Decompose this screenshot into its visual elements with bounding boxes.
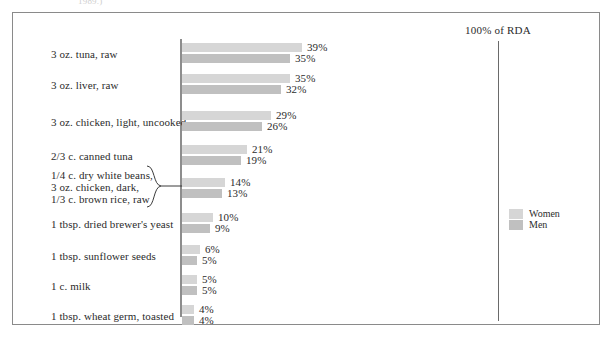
bar-men-sunflower-seeds [182, 256, 197, 265]
bar-row-label-line: 1 c. milk [51, 280, 91, 292]
group-brace-icon [143, 164, 183, 210]
bar-men-wheat-germ-toasted [182, 316, 194, 325]
bar-women-brewers-yeast [182, 213, 213, 222]
bar-men-beans-chicken-dark-brown-rice [182, 189, 222, 198]
plot-area: 100% of RDA 3 oz. tuna, raw39%35%3 oz. l… [13, 13, 601, 326]
figure-page: 1989.) 100% of RDA 3 oz. tuna, raw39%35%… [0, 0, 616, 342]
legend-swatch-men-icon [509, 220, 523, 230]
bar-pair-beans-chicken-dark-brown-rice [182, 178, 225, 198]
bar-row-label-line: 1 tbsp. sunflower seeds [51, 250, 156, 262]
bar-value-men-chicken-light-uncooked: 26% [267, 120, 287, 132]
bar-pair-chicken-light-uncooked [182, 111, 271, 131]
bar-row-label-tuna-raw: 3 oz. tuna, raw [51, 48, 118, 60]
bar-row-label-line: 1 tbsp. wheat germ, toasted [51, 310, 174, 322]
bar-women-liver-raw [182, 74, 290, 83]
bar-row-label-chicken-light-uncooked: 3 oz. chicken, light, uncooked [51, 116, 186, 128]
bar-row-label-line: 1/3 c. brown rice, raw [51, 193, 153, 205]
bar-value-men-brewers-yeast: 9% [215, 222, 230, 234]
bar-pair-tuna-raw [182, 43, 302, 63]
bar-row-label-line: 1/4 c. dry white beans, [51, 169, 153, 181]
bar-row-label-line: 2/3 c. canned tuna [51, 150, 133, 162]
bar-pair-sunflower-seeds [182, 245, 200, 265]
bar-women-beans-chicken-dark-brown-rice [182, 178, 225, 187]
bar-value-men-sunflower-seeds: 5% [202, 254, 217, 266]
bar-row-label-line: 3 oz. chicken, light, uncooked [51, 116, 186, 128]
bar-row-label-beans-chicken-dark-brown-rice: 1/4 c. dry white beans,3 oz. chicken, da… [51, 169, 153, 205]
bar-row-label-line: 1 tbsp. dried brewer's yeast [51, 218, 173, 230]
bar-women-tuna-raw [182, 43, 302, 52]
bar-row-label-wheat-germ-toasted: 1 tbsp. wheat germ, toasted [51, 310, 174, 322]
bar-pair-brewers-yeast [182, 213, 213, 233]
bar-value-men-wheat-germ-toasted: 4% [199, 314, 214, 326]
bar-women-sunflower-seeds [182, 245, 200, 254]
rda-reference-label: 100% of RDA [465, 24, 531, 36]
bar-women-chicken-light-uncooked [182, 111, 271, 120]
bar-row-label-canned-tuna: 2/3 c. canned tuna [51, 150, 133, 162]
bar-row-label-line: 3 oz. liver, raw [51, 79, 118, 91]
bar-pair-milk [182, 275, 197, 295]
bar-pair-canned-tuna [182, 145, 247, 165]
figure-frame: 100% of RDA 3 oz. tuna, raw39%35%3 oz. l… [12, 12, 600, 325]
bar-pair-liver-raw [182, 74, 290, 94]
bar-row-label-line: 3 oz. chicken, dark, [51, 181, 153, 193]
bar-value-men-milk: 5% [202, 284, 217, 296]
bar-value-men-canned-tuna: 19% [246, 154, 266, 166]
bar-row-label-liver-raw: 3 oz. liver, raw [51, 79, 118, 91]
bar-men-chicken-light-uncooked [182, 122, 262, 131]
bar-row-label-brewers-yeast: 1 tbsp. dried brewer's yeast [51, 218, 173, 230]
legend-swatch-women-icon [509, 209, 523, 219]
bar-value-men-liver-raw: 32% [286, 83, 306, 95]
bar-women-milk [182, 275, 197, 284]
bar-men-liver-raw [182, 85, 281, 94]
legend-label-men: Men [529, 219, 547, 230]
bar-value-men-tuna-raw: 35% [295, 52, 315, 64]
bar-men-brewers-yeast [182, 224, 210, 233]
bar-pair-wheat-germ-toasted [182, 305, 194, 325]
top-cut-caption: 1989.) [78, 0, 102, 6]
bar-men-canned-tuna [182, 156, 241, 165]
bar-women-wheat-germ-toasted [182, 305, 194, 314]
bar-row-label-line: 3 oz. tuna, raw [51, 48, 118, 60]
bar-row-label-milk: 1 c. milk [51, 280, 91, 292]
bar-row-label-sunflower-seeds: 1 tbsp. sunflower seeds [51, 250, 156, 262]
bar-women-canned-tuna [182, 145, 247, 154]
rda-reference-line [498, 41, 499, 321]
bar-men-milk [182, 286, 197, 295]
legend-label-women: Women [529, 208, 560, 219]
bar-men-tuna-raw [182, 54, 290, 63]
bar-value-men-beans-chicken-dark-brown-rice: 13% [227, 187, 247, 199]
